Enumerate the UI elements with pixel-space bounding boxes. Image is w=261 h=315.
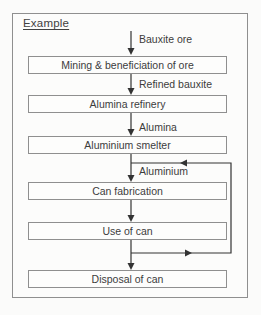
arrow-aluminium xyxy=(128,154,135,182)
box-use-of-can: Use of can xyxy=(28,222,227,240)
arrow-refined-bauxite xyxy=(128,74,135,95)
flow-connectors xyxy=(0,0,261,315)
box-can-fabrication: Can fabrication xyxy=(28,182,227,200)
arrow-fabrication-to-use xyxy=(128,200,135,222)
box-mining-beneficiation-label: Mining & beneficiation of ore xyxy=(61,59,194,71)
box-mining-beneficiation: Mining & beneficiation of ore xyxy=(28,56,227,74)
box-aluminium-smelter: Aluminium smelter xyxy=(28,136,227,154)
box-alumina-refinery: Alumina refinery xyxy=(28,95,227,113)
flow-label-alumina: Alumina xyxy=(139,121,177,133)
arrow-bauxite-ore xyxy=(128,31,135,55)
box-disposal-of-can: Disposal of can xyxy=(28,270,227,288)
box-use-of-can-label: Use of can xyxy=(102,225,152,237)
box-alumina-refinery-label: Alumina refinery xyxy=(90,98,166,110)
box-can-fabrication-label: Can fabrication xyxy=(92,185,163,197)
box-disposal-of-can-label: Disposal of can xyxy=(92,273,164,285)
arrow-use-to-disposal xyxy=(128,240,135,270)
box-aluminium-smelter-label: Aluminium smelter xyxy=(84,139,170,151)
flowchart-page: Example xyxy=(0,0,261,315)
flow-label-refined-bauxite: Refined bauxite xyxy=(139,78,212,90)
flow-label-aluminium: Aluminium xyxy=(139,165,188,177)
flow-label-bauxite-ore: Bauxite ore xyxy=(139,33,192,45)
arrow-alumina xyxy=(128,113,135,136)
